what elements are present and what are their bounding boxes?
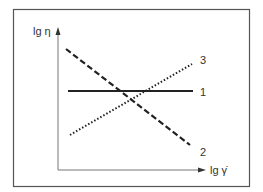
y-axis-arrow-icon [56,27,61,35]
x-axis-label: lg γ̇ [210,164,228,176]
y-axis [56,27,61,170]
y-axis-label: lg η [33,25,51,37]
viscosity-diagram: lg η lg γ̇ 1 2 3 [0,0,263,192]
curve-3-label: 3 [200,54,206,66]
curve-3-dotted [70,64,192,135]
curve-2-label: 2 [200,146,206,158]
x-axis-arrow-icon [198,168,206,173]
curve-1-label: 1 [200,86,206,98]
x-axis [58,168,206,173]
curve-2-dashed [66,49,190,145]
